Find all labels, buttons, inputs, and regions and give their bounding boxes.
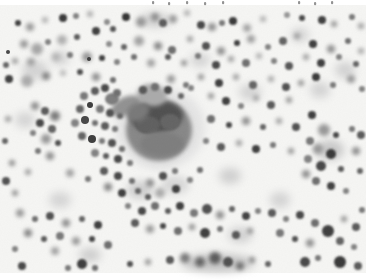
- micrograph-image: [0, 0, 366, 280]
- micrograph-svg: [0, 0, 366, 280]
